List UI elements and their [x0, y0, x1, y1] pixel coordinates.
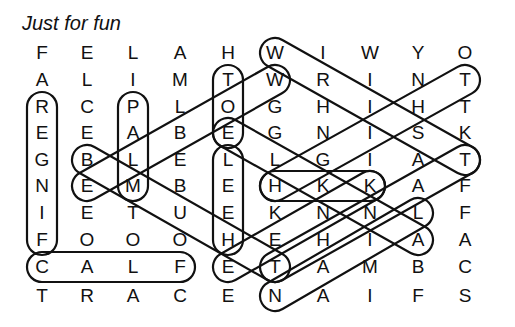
grid-letter[interactable]: C — [450, 255, 480, 279]
grid-letter[interactable]: A — [308, 255, 338, 279]
grid-letter[interactable]: O — [118, 228, 148, 252]
grid-letter[interactable]: T — [213, 68, 243, 92]
grid-letter[interactable]: M — [165, 68, 195, 92]
grid-letter[interactable]: F — [403, 284, 433, 308]
grid-letter[interactable]: Y — [403, 41, 433, 65]
grid-letter[interactable]: K — [308, 174, 338, 198]
grid-letter[interactable]: A — [118, 121, 148, 145]
grid-letter[interactable]: H — [403, 95, 433, 119]
grid-letter[interactable]: M — [118, 174, 148, 198]
grid-letter[interactable]: I — [308, 41, 338, 65]
grid-letter[interactable]: W — [260, 68, 290, 92]
grid-letter[interactable]: N — [355, 201, 385, 225]
grid-letter[interactable]: E — [213, 121, 243, 145]
grid-letter[interactable]: I — [27, 201, 57, 225]
grid-letter[interactable]: T — [450, 95, 480, 119]
grid-letter[interactable]: N — [260, 284, 290, 308]
grid-letter[interactable]: A — [165, 41, 195, 65]
grid-letter[interactable]: E — [72, 174, 102, 198]
grid-letter[interactable]: E — [27, 121, 57, 145]
grid-letter[interactable]: F — [165, 255, 195, 279]
grid-letter[interactable]: H — [308, 228, 338, 252]
grid-letter[interactable]: N — [27, 174, 57, 198]
grid-letter[interactable]: A — [27, 68, 57, 92]
grid-letter[interactable]: C — [72, 95, 102, 119]
grid-letter[interactable]: H — [213, 41, 243, 65]
grid-letter[interactable]: L — [403, 201, 433, 225]
grid-letter[interactable]: I — [355, 284, 385, 308]
grid-letter[interactable]: E — [213, 174, 243, 198]
grid-letter[interactable]: A — [72, 255, 102, 279]
grid-letter[interactable]: E — [213, 284, 243, 308]
grid-letter[interactable]: I — [355, 228, 385, 252]
grid-letter[interactable]: E — [165, 148, 195, 172]
grid-letter[interactable]: K — [260, 201, 290, 225]
grid-letter[interactable]: W — [355, 41, 385, 65]
grid-letter[interactable]: E — [72, 41, 102, 65]
grid-letter[interactable]: R — [308, 68, 338, 92]
grid-letter[interactable]: U — [165, 201, 195, 225]
grid-letter[interactable]: T — [260, 255, 290, 279]
grid-letter[interactable]: C — [27, 255, 57, 279]
grid-letter[interactable]: C — [165, 284, 195, 308]
grid-letter[interactable]: T — [450, 148, 480, 172]
grid-letter[interactable]: B — [72, 148, 102, 172]
grid-letter[interactable]: L — [118, 41, 148, 65]
grid-letter[interactable]: L — [72, 68, 102, 92]
grid-letter[interactable]: K — [355, 174, 385, 198]
grid-letter[interactable]: S — [403, 121, 433, 145]
grid-letter[interactable]: S — [450, 284, 480, 308]
grid-letter[interactable]: L — [165, 95, 195, 119]
grid-letter[interactable]: G — [308, 148, 338, 172]
grid-letter[interactable]: N — [403, 68, 433, 92]
grid-letter[interactable]: T — [450, 68, 480, 92]
grid-letter[interactable]: L — [118, 148, 148, 172]
grid-letter[interactable]: E — [72, 121, 102, 145]
grid-letter[interactable]: A — [308, 284, 338, 308]
grid-letter[interactable]: L — [213, 148, 243, 172]
grid-letter[interactable]: O — [72, 228, 102, 252]
grid-letter[interactable]: I — [355, 68, 385, 92]
grid-letter[interactable]: A — [403, 174, 433, 198]
grid-letter[interactable]: O — [213, 95, 243, 119]
grid-letter[interactable]: O — [450, 41, 480, 65]
grid-letter[interactable]: I — [355, 121, 385, 145]
grid-letter[interactable]: N — [308, 201, 338, 225]
grid-letter[interactable]: P — [118, 95, 148, 119]
grid-letter[interactable]: L — [118, 255, 148, 279]
grid-letter[interactable]: A — [403, 148, 433, 172]
grid-letter[interactable]: T — [118, 201, 148, 225]
grid-letter[interactable]: F — [450, 174, 480, 198]
grid-letter[interactable]: N — [308, 121, 338, 145]
grid-letter[interactable]: B — [165, 121, 195, 145]
grid-letter[interactable]: L — [260, 148, 290, 172]
grid-letter[interactable]: I — [118, 68, 148, 92]
grid-letter[interactable]: R — [27, 95, 57, 119]
grid-letter[interactable]: F — [27, 228, 57, 252]
grid-letter[interactable]: G — [27, 148, 57, 172]
grid-letter[interactable]: G — [260, 95, 290, 119]
grid-letter[interactable]: E — [213, 201, 243, 225]
grid-letter[interactable]: A — [118, 284, 148, 308]
grid-letter[interactable]: W — [260, 41, 290, 65]
grid-letter[interactable]: B — [403, 255, 433, 279]
grid-letter[interactable]: E — [72, 201, 102, 225]
grid-letter[interactable]: E — [213, 255, 243, 279]
grid-letter[interactable]: B — [165, 174, 195, 198]
grid-letter[interactable]: G — [260, 121, 290, 145]
grid-letter[interactable]: E — [260, 228, 290, 252]
grid-letter[interactable]: H — [213, 228, 243, 252]
grid-letter[interactable]: F — [450, 201, 480, 225]
grid-letter[interactable]: K — [450, 121, 480, 145]
grid-letter[interactable]: M — [355, 255, 385, 279]
grid-letter[interactable]: H — [260, 174, 290, 198]
grid-letter[interactable]: R — [72, 284, 102, 308]
grid-letter[interactable]: A — [403, 228, 433, 252]
grid-letter[interactable]: O — [165, 228, 195, 252]
grid-letter[interactable]: T — [27, 284, 57, 308]
grid-letter[interactable]: I — [355, 148, 385, 172]
grid-letter[interactable]: F — [27, 41, 57, 65]
grid-letter[interactable]: H — [308, 95, 338, 119]
grid-letter[interactable]: A — [450, 228, 480, 252]
grid-letter[interactable]: I — [355, 95, 385, 119]
